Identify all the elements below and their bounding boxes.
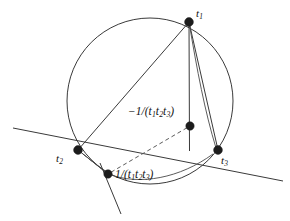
pos-inv-suffix: ): [150, 168, 154, 180]
vertical-line-t1-to-base: [189, 22, 190, 151]
label-positive-inverse-product: 1/(t1t2t3): [115, 169, 153, 182]
point-positive-inverse-product[interactable]: [104, 170, 112, 178]
label-t3-sub: 3: [224, 159, 228, 168]
label-negative-inverse-product: −1/(t1t2t3): [128, 106, 174, 119]
label-t1: t1: [196, 8, 203, 21]
chord-t1-t2: [78, 22, 189, 150]
point-t2[interactable]: [74, 146, 83, 155]
circumscribed-circle: [67, 18, 233, 184]
label-t2-sub: 2: [59, 157, 63, 166]
point-negative-inverse-product[interactable]: [186, 122, 194, 130]
point-t1[interactable]: [185, 18, 194, 27]
geometry-figure: t1 t2 t3 −1/(t1t2t3) 1/(t1t2t3): [0, 0, 290, 221]
label-t2: t2: [56, 153, 63, 166]
neg-inv-suffix: ): [170, 105, 174, 117]
label-t1-sub: 1: [199, 12, 203, 21]
dashed-line-t2-through-inverse-points: [78, 126, 190, 174]
neg-inv-prefix: −1/(t: [128, 105, 152, 117]
chord-t1-t3: [189, 22, 218, 150]
label-t3: t3: [221, 155, 228, 168]
pos-inv-prefix: 1/(t: [115, 168, 131, 180]
